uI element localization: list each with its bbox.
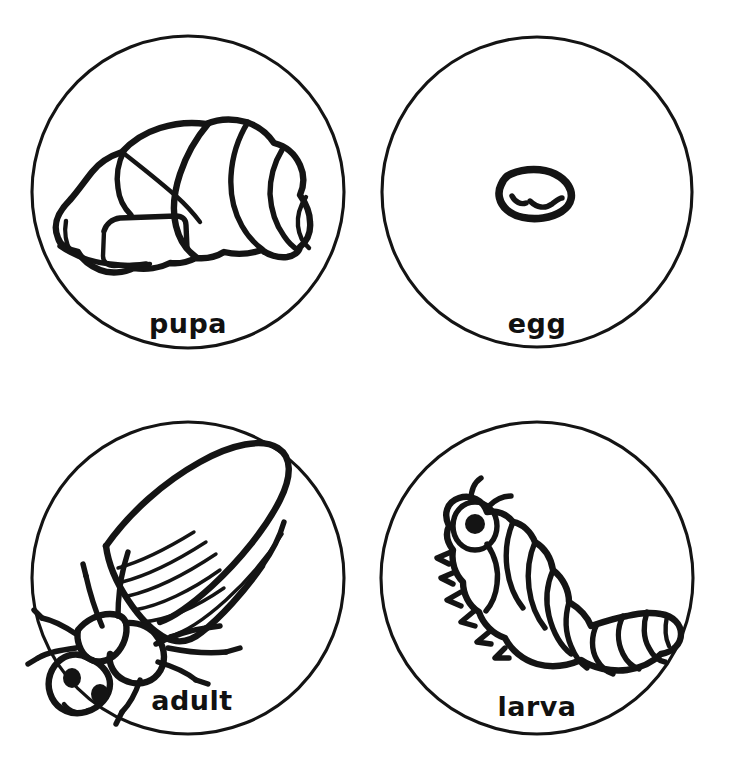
- egg-illustration: [499, 170, 571, 219]
- beetle-eye-left: [63, 668, 81, 688]
- life-cycle-worksheet: pupa egg: [0, 0, 731, 772]
- larva-eye: [465, 514, 485, 534]
- card-adult[interactable]: adult: [0, 386, 366, 772]
- adult-beetle-illustration: [28, 443, 289, 724]
- card-label-larva: larva: [497, 691, 576, 722]
- card-label-egg: egg: [508, 308, 566, 339]
- card-pupa[interactable]: pupa: [0, 0, 366, 386]
- beetle-eye-right: [91, 684, 109, 704]
- larva-illustration: [437, 478, 681, 674]
- pupa-illustration: [56, 120, 311, 273]
- card-circle-outline: [381, 422, 693, 734]
- card-label-pupa: pupa: [149, 308, 227, 339]
- card-label-adult: adult: [151, 685, 232, 716]
- card-circle-outline: [382, 37, 692, 347]
- card-egg[interactable]: egg: [365, 0, 731, 386]
- card-larva[interactable]: larva: [365, 386, 731, 772]
